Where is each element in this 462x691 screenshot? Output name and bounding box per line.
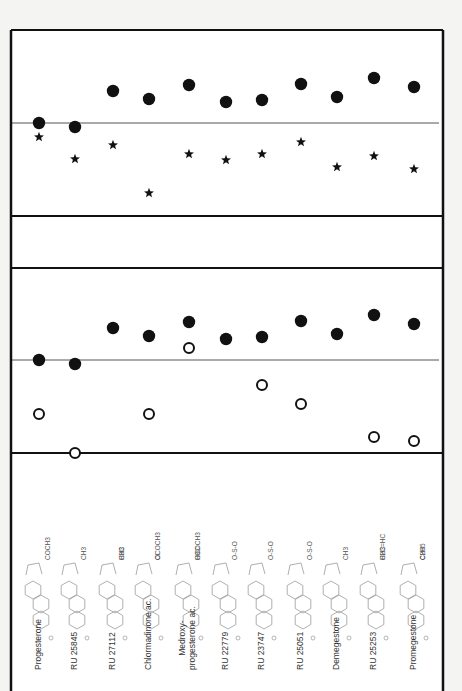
- filled-circle-marker: [143, 330, 155, 342]
- filled-circle-marker: [69, 358, 81, 370]
- compound-label: Medroxy-progesterone ac.: [177, 606, 197, 670]
- filled-circle-marker: [408, 318, 420, 330]
- filled-circle-marker: [107, 322, 119, 334]
- filled-circle-marker: [33, 117, 45, 129]
- substituent-label: CH3: [341, 547, 351, 560]
- compound-label: RU 25845: [69, 632, 79, 670]
- filled-circle-marker: [69, 121, 81, 133]
- filled-circle-marker: [295, 315, 307, 327]
- compound-name-line2: progesterone ac.: [187, 606, 197, 670]
- open-circle-marker: [296, 399, 306, 409]
- filled-circle-marker: [408, 81, 420, 93]
- filled-circle-marker: [331, 91, 343, 103]
- filled-circle-marker: [183, 79, 195, 91]
- compound-label: RU 27112: [107, 632, 117, 670]
- substituent-label: H3C: [193, 547, 203, 560]
- compound-label: Chlormadinone ac.: [143, 599, 153, 670]
- compound-name: RU 23747: [256, 632, 266, 670]
- filled-circle-marker: [256, 331, 268, 343]
- compound-label: RU 22779: [220, 632, 230, 670]
- compound-name: RU 25051: [295, 632, 305, 670]
- compound-label: Promegestone: [408, 615, 418, 670]
- compound-name: Medroxy-: [177, 606, 187, 670]
- compound-name: Promegestone: [408, 615, 418, 670]
- filled-circle-marker: [143, 93, 155, 105]
- open-circle-marker: [144, 409, 154, 419]
- filled-circle-marker: [368, 309, 380, 321]
- compound-name: RU 27112: [107, 632, 117, 670]
- substituent-label: CH3: [418, 547, 428, 560]
- substituent-label: O-S-O: [305, 541, 315, 560]
- substituent-label: Cl: [153, 554, 163, 560]
- compound-name: Progesterone: [33, 619, 43, 670]
- filled-circle-marker: [220, 96, 232, 108]
- filled-circle-marker: [256, 94, 268, 106]
- compound-label: Progesterone: [33, 619, 43, 670]
- filled-circle-marker: [107, 85, 119, 97]
- open-circle-marker: [257, 380, 267, 390]
- compound-label: RU 25253: [368, 632, 378, 670]
- substituent-label: COCH3: [43, 537, 53, 560]
- filled-circle-marker: [183, 316, 195, 328]
- compound-label: Demegestone: [331, 617, 341, 670]
- compound-name: RU 25845: [69, 632, 79, 670]
- open-circle-marker: [34, 409, 44, 419]
- filled-circle-marker: [295, 78, 307, 90]
- filled-circle-marker: [331, 328, 343, 340]
- substituent-label: H3C: [117, 547, 127, 560]
- substituent-label: O-S-O: [230, 541, 240, 560]
- open-circle-marker: [409, 436, 419, 446]
- open-circle-marker: [369, 432, 379, 442]
- filled-circle-marker: [368, 72, 380, 84]
- filled-circle-marker: [33, 354, 45, 366]
- compound-name: Demegestone: [331, 617, 341, 670]
- substituent-label: CH3: [79, 547, 89, 560]
- substituent-label: O-S-O: [266, 541, 276, 560]
- figure: ProgesteroneRU 25845RU 27112Chlormadinon…: [0, 0, 462, 691]
- substituent-label: H2C=HC: [378, 534, 388, 560]
- compound-name: Chlormadinone ac.: [143, 599, 153, 670]
- compound-label: RU 25051: [295, 632, 305, 670]
- compound-name: RU 25253: [368, 632, 378, 670]
- open-circle-marker: [70, 448, 80, 458]
- open-circle-marker: [184, 343, 194, 353]
- compound-name: RU 22779: [220, 632, 230, 670]
- compound-label: RU 23747: [256, 632, 266, 670]
- chart-svg: [0, 0, 462, 691]
- filled-circle-marker: [220, 333, 232, 345]
